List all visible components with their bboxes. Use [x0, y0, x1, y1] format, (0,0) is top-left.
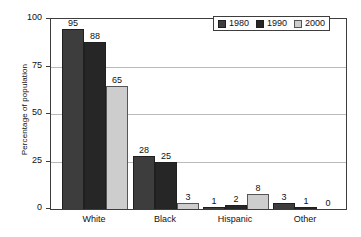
legend-swatch-icon — [294, 20, 302, 28]
bar-white-1980[interactable]: 95 — [62, 19, 84, 209]
legend-label: 1980 — [229, 19, 249, 28]
bar-other-1990[interactable]: 1 — [295, 19, 317, 209]
y-axis-label: 50 — [2, 107, 42, 117]
legend-label: 2000 — [305, 19, 325, 28]
legend-label: 1990 — [267, 19, 287, 28]
bar-value-label: 0 — [325, 198, 330, 208]
bar-chart: Percentage of population 1007550250 9588… — [0, 0, 361, 237]
chart-legend: 198019902000 — [213, 16, 330, 31]
legend-item-1990[interactable]: 1990 — [256, 19, 287, 28]
y-axis-label: 25 — [2, 155, 42, 165]
bar-rect — [177, 203, 199, 209]
bar-rect — [295, 207, 317, 209]
bar-rect — [106, 86, 128, 210]
bar-value-label: 1 — [211, 196, 216, 206]
bar-rect — [133, 156, 155, 209]
bar-rect — [247, 194, 269, 209]
x-axis-label-black: Black — [154, 214, 176, 224]
y-axis-label: 100 — [2, 12, 42, 22]
bar-rect — [84, 42, 106, 209]
bar-value-label: 25 — [161, 151, 171, 161]
bar-value-label: 65 — [112, 75, 122, 85]
legend-swatch-icon — [218, 20, 226, 28]
bar-group-other: 310 — [273, 19, 339, 209]
bar-black-1980[interactable]: 28 — [133, 19, 155, 209]
legend-item-2000[interactable]: 2000 — [294, 19, 325, 28]
bar-value-label: 2 — [233, 194, 238, 204]
bar-value-label: 1 — [303, 196, 308, 206]
bar-hispanic-1980[interactable]: 1 — [203, 19, 225, 209]
y-axis-label: 75 — [2, 60, 42, 70]
x-axis-label-other: Other — [294, 214, 317, 224]
bar-hispanic-1990[interactable]: 2 — [225, 19, 247, 209]
bar-rect — [203, 207, 225, 209]
bar-other-1980[interactable]: 3 — [273, 19, 295, 209]
x-axis-label-hispanic: Hispanic — [218, 214, 253, 224]
bar-group-hispanic: 128 — [203, 19, 269, 209]
bar-rect — [225, 205, 247, 209]
bar-other-2000[interactable]: 0 — [317, 19, 339, 209]
bar-group-black: 28253 — [133, 19, 199, 209]
bar-white-2000[interactable]: 65 — [106, 19, 128, 209]
bar-value-label: 88 — [90, 31, 100, 41]
bar-white-1990[interactable]: 88 — [84, 19, 106, 209]
bar-black-2000[interactable]: 3 — [177, 19, 199, 209]
plot-area: 95886528253128310 — [50, 18, 347, 210]
y-axis-label: 0 — [2, 202, 42, 212]
bar-rect — [62, 29, 84, 210]
bar-black-1990[interactable]: 25 — [155, 19, 177, 209]
bar-rect — [273, 203, 295, 209]
bar-value-label: 95 — [68, 18, 78, 28]
bar-value-label: 3 — [185, 192, 190, 202]
bar-rect — [155, 162, 177, 210]
bar-value-label: 8 — [255, 183, 260, 193]
bar-group-white: 958865 — [62, 19, 128, 209]
bar-hispanic-2000[interactable]: 8 — [247, 19, 269, 209]
legend-swatch-icon — [256, 20, 264, 28]
legend-item-1980[interactable]: 1980 — [218, 19, 249, 28]
bar-value-label: 3 — [281, 192, 286, 202]
bar-value-label: 28 — [139, 145, 149, 155]
x-axis-label-white: White — [82, 214, 105, 224]
